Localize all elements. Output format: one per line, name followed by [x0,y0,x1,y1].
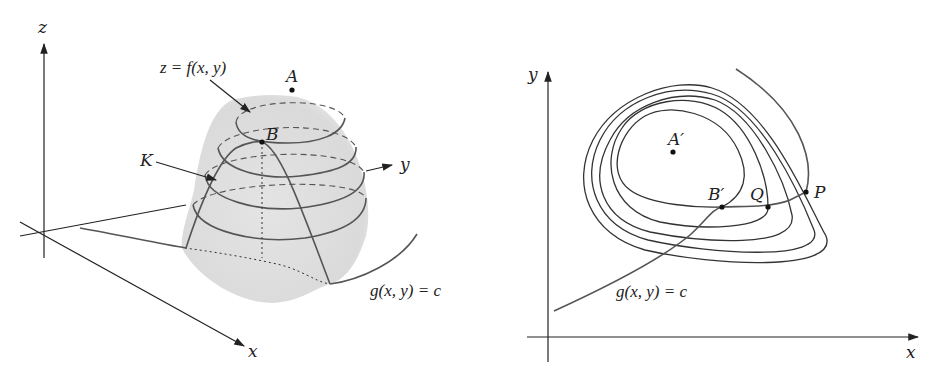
y-axis-arrow [366,165,392,171]
x-axis-right-label: x [906,342,916,362]
figure-canvas: z x y z = f(x, y) A B K g(x, y) = c y x [0,0,950,375]
y-axis-label: y [399,154,410,174]
x-axis-label: x [248,341,258,361]
point-a [289,87,294,92]
constraint-label-left: g(x, y) = c [370,281,441,300]
level-curve-5 [584,85,827,263]
left-figure: z x y z = f(x, y) A B K g(x, y) = c [20,17,441,361]
point-b-prime [719,204,724,209]
y-axis-right-label: y [527,64,538,84]
point-p-label: P [813,182,826,202]
point-a-label: A [284,66,298,86]
point-b-label: B [265,124,279,144]
level-curve-2 [611,100,768,226]
point-b [259,139,264,144]
point-q [765,204,770,209]
right-figure: y x A′ B′ Q P g(x, y) = c [527,64,918,362]
surface-label: z = f(x, y) [159,58,227,77]
point-a-prime-label: A′ [666,129,684,149]
level-curve-3 [600,96,792,240]
point-b-prime-label: B′ [707,184,724,204]
y-axis [20,205,186,236]
point-p [803,189,808,194]
level-curves [584,85,827,263]
z-axis-label: z [37,17,48,37]
constraint-curve-left [80,228,186,248]
level-curve-4 [592,90,815,252]
point-a-prime [670,149,675,154]
constraint-label-right: g(x, y) = c [616,282,687,301]
level-curve-1 [617,110,744,207]
constraint-curve-right-upper [736,69,808,192]
point-q-label: Q [750,184,764,204]
curve-k-label: K [139,150,154,170]
